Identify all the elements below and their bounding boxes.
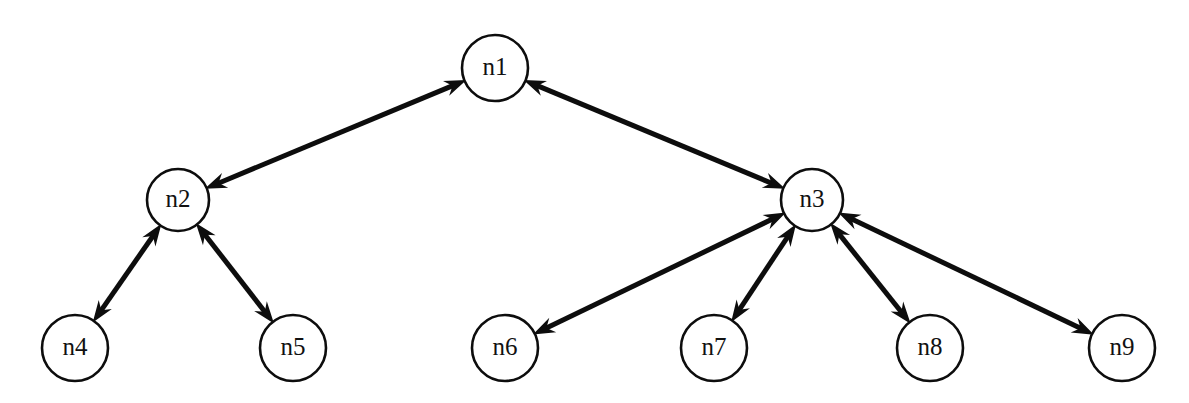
edges-layer [93, 80, 1094, 335]
edge-line [535, 85, 774, 185]
node-circle-n7[interactable] [681, 315, 747, 381]
node-circle-n6[interactable] [472, 315, 538, 381]
node-circle-n2[interactable] [147, 169, 209, 231]
node-circle-n4[interactable] [42, 315, 108, 381]
node-circle-n1[interactable] [462, 35, 528, 101]
graph-edge-n1-n3 [524, 80, 786, 189]
graph-node-n6[interactable]: n6 [472, 315, 538, 381]
edge-line [838, 232, 904, 314]
nodes-layer: n1n2n3n4n5n6n7n8n9 [42, 35, 1155, 381]
node-circle-n3[interactable] [781, 169, 843, 231]
graph-svg: n1n2n3n4n5n6n7n8n9 [0, 0, 1189, 403]
edge-line [203, 232, 266, 314]
node-circle-n9[interactable] [1089, 315, 1155, 381]
graph-canvas: n1n2n3n4n5n6n7n8n9 [0, 0, 1189, 403]
edge-line [100, 234, 155, 313]
graph-edge-n1-n2 [205, 80, 467, 189]
graph-edge-n3-n7 [731, 224, 796, 322]
arrowhead-n7 [731, 299, 750, 322]
graph-edge-n3-n6 [533, 213, 786, 335]
edge-line [216, 85, 455, 185]
graph-node-n4[interactable]: n4 [42, 315, 108, 381]
graph-edge-n3-n9 [838, 212, 1094, 334]
graph-edge-n3-n8 [830, 223, 911, 324]
arrowhead-n3 [777, 224, 796, 247]
node-circle-n5[interactable] [260, 315, 326, 381]
graph-node-n8[interactable]: n8 [897, 315, 963, 381]
graph-node-n2[interactable]: n2 [147, 169, 209, 231]
edge-line [849, 218, 1083, 330]
graph-node-n1[interactable]: n1 [462, 35, 528, 101]
graph-node-n9[interactable]: n9 [1089, 315, 1155, 381]
graph-node-n5[interactable]: n5 [260, 315, 326, 381]
edge-line [738, 234, 790, 312]
graph-edge-n2-n5 [196, 223, 274, 324]
graph-node-n7[interactable]: n7 [681, 315, 747, 381]
graph-node-n3[interactable]: n3 [781, 169, 843, 231]
graph-edge-n2-n4 [93, 224, 162, 323]
node-circle-n8[interactable] [897, 315, 963, 381]
